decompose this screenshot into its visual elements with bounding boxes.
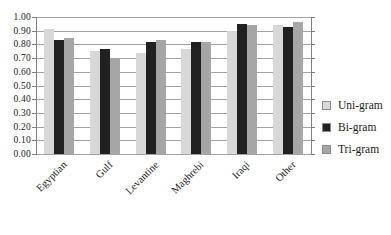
bar-bi-gram-gulf — [100, 49, 110, 154]
bar-uni-gram-iraqi — [227, 31, 237, 154]
bar-bi-gram-maghrebi — [191, 42, 201, 154]
bar-bi-gram-egyptian — [54, 40, 64, 154]
y-axis-tick-label: 0.20 — [0, 122, 31, 133]
gridline — [36, 127, 311, 128]
gridline — [36, 113, 311, 114]
y-axis-line — [36, 17, 37, 155]
y-axis-tick-label: 0.40 — [0, 94, 31, 105]
y-axis-tick-label: 0.60 — [0, 67, 31, 78]
legend-swatch-icon — [322, 145, 331, 154]
y-axis-tick-label: 0.50 — [0, 81, 31, 92]
bar-bi-gram-other — [283, 27, 293, 154]
y-axis-tick-label: 0.70 — [0, 53, 31, 64]
gridline — [36, 44, 311, 45]
legend-label: Bi-gram — [338, 121, 376, 133]
gridline — [36, 140, 311, 141]
bar-bi-gram-iraqi — [237, 24, 247, 154]
bar-tri-gram-egyptian — [64, 38, 74, 154]
legend-entry-bi-gram: Bi-gram — [322, 116, 383, 138]
bar-tri-gram-levantine — [156, 40, 166, 154]
gridline — [36, 99, 311, 100]
bar-uni-gram-maghrebi — [181, 49, 191, 154]
bar-tri-gram-maghrebi — [201, 42, 211, 154]
legend-entry-uni-gram: Uni-gram — [322, 94, 383, 116]
legend-swatch-icon — [322, 101, 331, 110]
legend-entry-tri-gram: Tri-gram — [322, 138, 383, 160]
bar-uni-gram-levantine — [136, 53, 146, 154]
gridline — [36, 17, 311, 18]
legend-swatch-icon — [322, 123, 331, 132]
legend-label: Uni-gram — [338, 99, 383, 111]
bar-tri-gram-iraqi — [247, 25, 257, 154]
bar-tri-gram-other — [293, 22, 303, 154]
gridline — [36, 86, 311, 87]
legend: Uni-gramBi-gramTri-gram — [322, 94, 383, 160]
gridline — [36, 58, 311, 59]
gridline — [36, 31, 311, 32]
bar-bi-gram-levantine — [146, 42, 156, 154]
bar-uni-gram-egyptian — [44, 29, 54, 154]
y-axis-tick-label: 0.30 — [0, 108, 31, 119]
bar-tri-gram-gulf — [110, 58, 120, 154]
plot-right-border — [311, 17, 312, 155]
ngram-accuracy-bar-chart: 0.000.100.200.300.400.500.600.700.800.90… — [0, 0, 391, 235]
bar-uni-gram-other — [273, 25, 283, 154]
y-axis-tick-label: 0.90 — [0, 26, 31, 37]
bar-uni-gram-gulf — [90, 51, 100, 154]
y-axis-tick-label: 0.10 — [0, 135, 31, 146]
gridline — [36, 154, 311, 155]
y-axis-tick-label: 0.80 — [0, 39, 31, 50]
y-axis-tick-label: 0.00 — [0, 149, 31, 160]
legend-label: Tri-gram — [338, 143, 379, 155]
gridline — [36, 72, 311, 73]
y-axis-tick-label: 1.00 — [0, 12, 31, 23]
